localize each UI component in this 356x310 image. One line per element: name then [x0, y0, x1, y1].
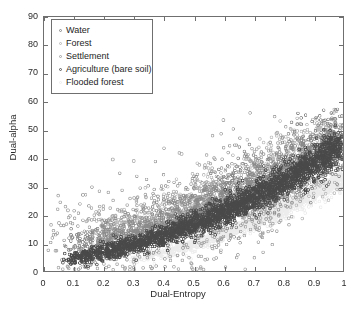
- y-tick-mark: [44, 131, 48, 132]
- y-tick-mark-right: [339, 102, 343, 103]
- x-tick-label: 0.1: [58, 279, 88, 288]
- x-tick-mark: [134, 267, 135, 271]
- y-tick-label: 40: [28, 154, 38, 163]
- x-tick-label: 1: [329, 279, 356, 288]
- x-axis-title: Dual-Entropy: [0, 288, 356, 299]
- x-tick-mark-top: [164, 17, 165, 21]
- y-tick-mark-right: [339, 159, 343, 160]
- x-tick-mark: [74, 267, 75, 271]
- y-tick-mark: [44, 245, 48, 246]
- y-tick-label: 20: [28, 211, 38, 220]
- y-tick-mark-right: [339, 216, 343, 217]
- x-tick-mark-top: [44, 17, 45, 21]
- legend-marker-icon: [55, 68, 66, 71]
- y-tick-mark: [44, 159, 48, 160]
- x-tick-label: 0.4: [148, 279, 178, 288]
- legend-item: Water: [55, 24, 149, 37]
- legend-item-label: Forest: [66, 38, 92, 49]
- x-tick-mark: [285, 267, 286, 271]
- legend-marker-icon: [55, 42, 66, 45]
- x-tick-mark-top: [195, 17, 196, 21]
- y-tick-label: 30: [28, 182, 38, 191]
- x-tick-mark: [104, 267, 105, 271]
- y-tick-mark-right: [339, 188, 343, 189]
- y-tick-mark-right: [339, 17, 343, 18]
- scatter-plot-figure: 0102030405060708090 00.10.20.30.40.50.60…: [0, 0, 356, 310]
- y-tick-mark: [44, 102, 48, 103]
- legend-item-label: Settlement: [66, 51, 109, 62]
- y-tick-mark: [44, 45, 48, 46]
- x-tick-label: 0.3: [118, 279, 148, 288]
- x-tick-mark-top: [315, 17, 316, 21]
- y-tick-label: 50: [28, 125, 38, 134]
- x-tick-mark-top: [285, 17, 286, 21]
- x-tick-mark-top: [225, 17, 226, 21]
- y-axis-title: Dual-alpha: [7, 98, 18, 178]
- y-tick-mark-right: [339, 74, 343, 75]
- legend-item: Forest: [55, 37, 149, 50]
- y-tick-label: 60: [28, 97, 38, 106]
- y-tick-label: 70: [28, 68, 38, 77]
- x-tick-label: 0: [28, 279, 58, 288]
- y-tick-mark-right: [339, 245, 343, 246]
- y-tick-mark: [44, 188, 48, 189]
- legend-box: WaterForestSettlementAgriculture (bare s…: [51, 19, 153, 94]
- x-tick-mark: [315, 267, 316, 271]
- x-tick-label: 0.9: [299, 279, 329, 288]
- y-tick-mark: [44, 216, 48, 217]
- x-tick-mark-top: [255, 17, 256, 21]
- legend-marker-icon: [55, 29, 66, 32]
- legend-item: Settlement: [55, 50, 149, 63]
- legend-item-label: Water: [66, 25, 90, 36]
- x-tick-mark: [225, 267, 226, 271]
- x-tick-label: 0.2: [88, 279, 118, 288]
- x-tick-label: 0.8: [269, 279, 299, 288]
- legend-item-label: Flooded forest: [66, 77, 124, 88]
- x-tick-label: 0.6: [209, 279, 239, 288]
- legend-marker-icon: [55, 81, 66, 84]
- x-tick-mark: [44, 267, 45, 271]
- legend-item: Flooded forest: [55, 76, 149, 89]
- x-tick-mark: [164, 267, 165, 271]
- x-tick-label: 0.5: [179, 279, 209, 288]
- legend-marker-icon: [55, 55, 66, 58]
- x-tick-mark: [255, 267, 256, 271]
- y-tick-mark-right: [339, 45, 343, 46]
- legend-item: Agriculture (bare soil): [55, 63, 149, 76]
- y-tick-mark-right: [339, 131, 343, 132]
- y-tick-label: 10: [28, 239, 38, 248]
- x-tick-label: 0.7: [239, 279, 269, 288]
- x-tick-mark: [195, 267, 196, 271]
- y-tick-label: 0: [33, 268, 38, 277]
- legend-item-label: Agriculture (bare soil): [66, 64, 152, 75]
- y-tick-label: 90: [28, 12, 38, 21]
- y-tick-mark: [44, 74, 48, 75]
- y-tick-label: 80: [28, 40, 38, 49]
